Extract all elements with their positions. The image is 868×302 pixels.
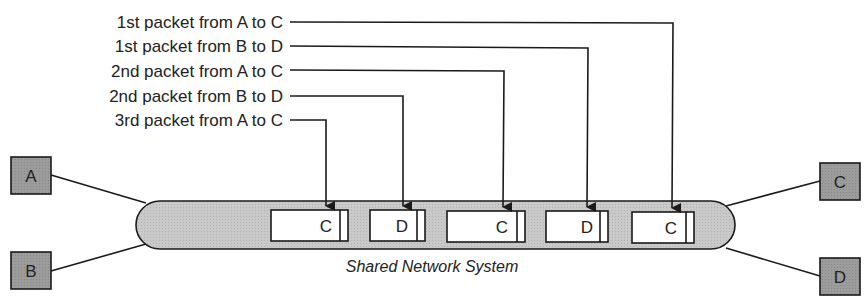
- network-caption: Shared Network System: [346, 258, 519, 275]
- link-a: [51, 175, 146, 203]
- packet-3-dest: C: [496, 218, 508, 237]
- label-2nd-b-to-d: 2nd packet from B to D: [109, 87, 283, 106]
- packet-1-dest: C: [320, 217, 332, 236]
- link-b: [51, 244, 146, 271]
- packet-2: D: [370, 210, 425, 241]
- host-d-label: D: [834, 268, 846, 287]
- host-c: C: [820, 163, 860, 200]
- label-1st-b-to-d: 1st packet from B to D: [115, 37, 283, 56]
- label-1st-a-to-c: 1st packet from A to C: [117, 13, 283, 32]
- host-b-label: B: [25, 262, 36, 281]
- arrow-3rd-a-to-c: [290, 120, 326, 206]
- link-c: [726, 181, 820, 206]
- shared-network-diagram: A B C D C D C D C 1st packet from A to C: [0, 0, 868, 302]
- packet-4: D: [546, 211, 608, 242]
- host-b: B: [11, 252, 51, 289]
- host-a: A: [11, 157, 51, 194]
- packet-4-dest: D: [581, 218, 593, 237]
- packet-2-dest: D: [396, 217, 408, 236]
- packet-3: C: [447, 211, 525, 242]
- arrow-2nd-b-to-d: [290, 96, 403, 206]
- packet-5-dest: C: [665, 219, 677, 238]
- label-3rd-a-to-c: 3rd packet from A to C: [115, 111, 283, 130]
- arrow-2nd-a-to-c: [290, 70, 504, 207]
- link-d: [726, 248, 820, 276]
- host-d: D: [820, 258, 860, 295]
- packet-1: C: [271, 210, 348, 241]
- label-2nd-a-to-c: 2nd packet from A to C: [111, 62, 283, 81]
- host-a-label: A: [25, 167, 37, 186]
- host-c-label: C: [834, 173, 846, 192]
- packet-5: C: [632, 212, 694, 243]
- arrow-1st-a-to-c: [290, 22, 673, 208]
